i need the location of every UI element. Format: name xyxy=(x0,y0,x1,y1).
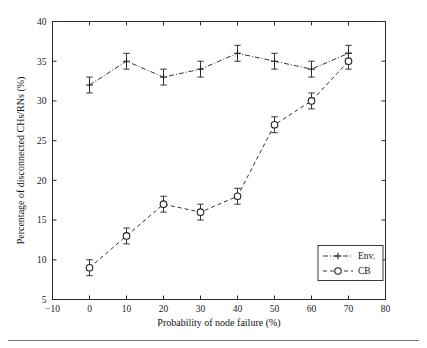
x-tick-label: 80 xyxy=(381,304,391,314)
y-tick-label: 15 xyxy=(37,215,47,225)
chart-legend: Env.CB xyxy=(318,246,383,281)
y-tick-label: 25 xyxy=(37,136,47,146)
y-tick-label: 30 xyxy=(37,96,47,106)
y-tick-label: 35 xyxy=(37,57,47,67)
figure-container: 510152025303540 −1001020304050607080 Pro… xyxy=(0,0,427,348)
y-tick-label: 20 xyxy=(37,176,47,186)
x-tick-label: −10 xyxy=(45,304,60,314)
data-point-marker-circle xyxy=(345,58,352,65)
data-point-marker-circle xyxy=(86,264,93,271)
data-point-marker-circle xyxy=(197,209,204,216)
x-tick-label: 70 xyxy=(344,304,354,314)
x-tick-label: 10 xyxy=(122,304,132,314)
data-point-marker-circle xyxy=(308,98,315,105)
x-tick-label: 0 xyxy=(87,304,92,314)
line-chart: 510152025303540 −1001020304050607080 Pro… xyxy=(0,0,427,348)
legend-label: CB xyxy=(358,266,371,276)
data-point-marker-circle xyxy=(160,201,167,208)
data-point-marker-circle xyxy=(123,233,130,240)
x-tick-label: 50 xyxy=(270,304,280,314)
data-point-marker-circle xyxy=(271,121,278,128)
x-tick-label: 60 xyxy=(307,304,317,314)
x-tick-label: 40 xyxy=(233,304,243,314)
data-point-marker-circle xyxy=(234,193,241,200)
legend-label: Env. xyxy=(358,251,375,261)
x-axis-title: Probability of node failure (%) xyxy=(157,317,280,329)
legend-marker-circle xyxy=(335,268,341,274)
y-tick-label: 10 xyxy=(37,255,47,265)
y-tick-label: 40 xyxy=(37,17,47,27)
chart-background xyxy=(0,0,427,348)
x-tick-label: 20 xyxy=(159,304,169,314)
y-axis-title: Percentage of disconnected CHs/RNs (%) xyxy=(15,77,27,245)
x-tick-label: 30 xyxy=(196,304,206,314)
